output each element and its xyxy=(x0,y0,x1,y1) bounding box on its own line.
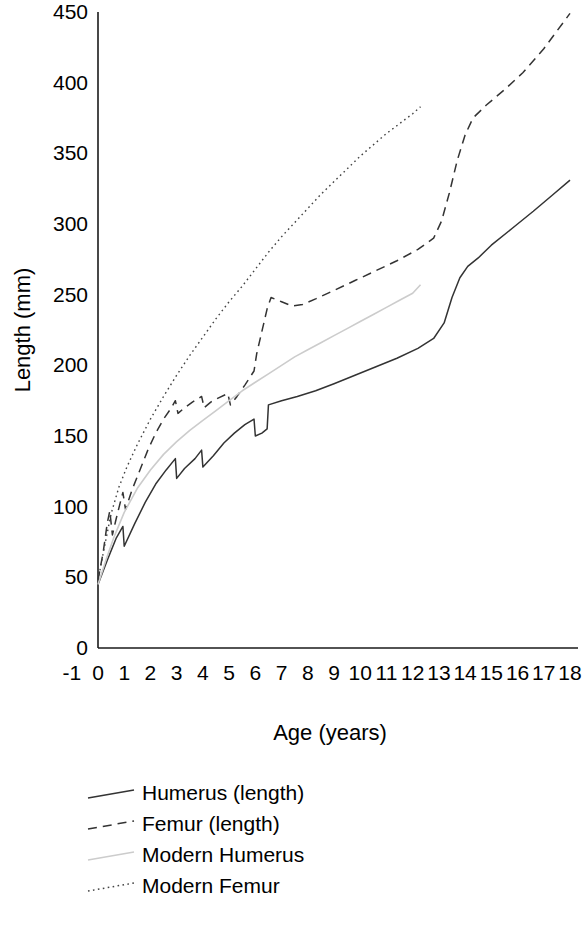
x-axis-title: Age (years) xyxy=(273,720,387,745)
x-tick-label: 10 xyxy=(349,661,372,684)
y-tick-label: 350 xyxy=(53,141,88,164)
y-tick-label: 250 xyxy=(53,283,88,306)
x-tick-label: 9 xyxy=(328,661,340,684)
x-tick-label: 11 xyxy=(376,661,398,684)
x-tick-label: 13 xyxy=(427,661,450,684)
y-tick-label: 100 xyxy=(53,495,88,518)
legend-swatch-dashed xyxy=(88,821,134,829)
x-tick-label: 5 xyxy=(223,661,235,684)
x-tick-label: 18 xyxy=(558,661,581,684)
series-lines-group xyxy=(98,13,570,584)
growth-chart-figure: Length (mm) 050100150200250300350400450 … xyxy=(0,0,588,926)
legend-label: Humerus (length) xyxy=(142,781,304,804)
chart-canvas: Length (mm) 050100150200250300350400450 … xyxy=(0,0,588,926)
x-tick-label: 3 xyxy=(171,661,183,684)
y-axis-tick-labels: 050100150200250300350400450 xyxy=(53,0,88,659)
legend-label: Modern Femur xyxy=(142,874,280,897)
x-tick-label: 4 xyxy=(197,661,209,684)
x-tick-label: 2 xyxy=(145,661,157,684)
y-tick-label: 300 xyxy=(53,212,88,235)
x-tick-label: 1 xyxy=(118,661,130,684)
series-line xyxy=(98,13,570,580)
x-tick-label: -1 xyxy=(62,661,81,684)
x-tick-label: 6 xyxy=(249,661,261,684)
series-line xyxy=(98,180,570,584)
y-tick-label: 0 xyxy=(76,636,88,659)
legend-swatch-solid xyxy=(88,790,134,798)
x-axis-tick-labels: -10123456789101112131415161718 xyxy=(62,661,581,684)
y-tick-label: 50 xyxy=(65,565,88,588)
legend-label: Modern Humerus xyxy=(142,843,304,866)
x-tick-label: 7 xyxy=(276,661,288,684)
legend-swatch-dotted xyxy=(88,883,134,891)
y-axis-title: Length (mm) xyxy=(10,268,35,393)
x-tick-label: 8 xyxy=(302,661,314,684)
x-tick-label: 16 xyxy=(506,661,529,684)
x-tick-label: 14 xyxy=(453,661,477,684)
y-tick-label: 150 xyxy=(53,424,88,447)
y-tick-label: 200 xyxy=(53,353,88,376)
x-tick-label: 0 xyxy=(92,661,104,684)
chart-legend: Humerus (length)Femur (length)Modern Hum… xyxy=(88,781,304,897)
x-tick-label: 17 xyxy=(532,661,555,684)
legend-label: Femur (length) xyxy=(142,812,280,835)
y-tick-label: 400 xyxy=(53,71,88,94)
legend-swatch-solid xyxy=(88,852,134,860)
x-tick-label: 15 xyxy=(480,661,503,684)
y-tick-label: 450 xyxy=(53,0,88,23)
x-tick-label: 12 xyxy=(401,661,424,684)
